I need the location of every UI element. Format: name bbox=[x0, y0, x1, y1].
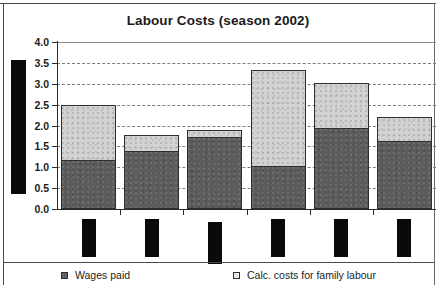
bar-segment-wages-paid-5 bbox=[314, 128, 369, 209]
y-axis-line bbox=[57, 41, 58, 210]
bar-segment-wages-paid-3 bbox=[187, 137, 242, 209]
legend-item-family-labour[interactable]: Calc. costs for family labour bbox=[233, 269, 376, 281]
redaction-block-y-axis-title bbox=[11, 60, 26, 194]
bar-segment-family-labour-5 bbox=[314, 83, 369, 130]
x-axis-tick-3 bbox=[247, 210, 248, 215]
legend-separator bbox=[4, 262, 434, 263]
legend-item-wages-paid[interactable]: Wages paid bbox=[61, 269, 130, 281]
legend-swatch-icon-2 bbox=[233, 272, 240, 279]
bar-segment-family-labour-4 bbox=[251, 70, 306, 167]
legend-label-2: Calc. costs for family labour bbox=[247, 269, 376, 281]
redaction-block-category-5 bbox=[334, 219, 348, 257]
figure-border-top bbox=[0, 3, 436, 4]
bar-category-1 bbox=[61, 105, 116, 209]
x-axis-tick-4 bbox=[310, 210, 311, 215]
bar-category-2 bbox=[124, 135, 179, 209]
x-axis-tick-2 bbox=[183, 210, 184, 215]
bar-segment-wages-paid-1 bbox=[61, 160, 116, 209]
y-axis-label-0.0: 0.0 bbox=[0, 204, 49, 215]
legend-label-1: Wages paid bbox=[75, 269, 130, 281]
bar-category-6 bbox=[377, 117, 432, 209]
plot-area bbox=[57, 42, 436, 209]
chart-figure: Labour Costs (season 2002) 4.03.53.02.52… bbox=[0, 0, 436, 285]
bar-segment-family-labour-6 bbox=[377, 117, 432, 142]
legend-swatch-icon-1 bbox=[61, 272, 68, 279]
bar-category-4 bbox=[251, 70, 306, 209]
bar-category-5 bbox=[314, 83, 369, 210]
bar-segment-wages-paid-2 bbox=[124, 151, 179, 209]
gridline-3.5 bbox=[57, 63, 436, 64]
bar-segment-wages-paid-6 bbox=[377, 141, 432, 209]
bar-segment-family-labour-2 bbox=[124, 135, 179, 152]
bar-segment-wages-paid-4 bbox=[251, 166, 306, 209]
y-axis-label-4.0: 4.0 bbox=[0, 37, 49, 48]
redaction-block-category-4 bbox=[271, 219, 285, 257]
redaction-block-category-6 bbox=[397, 219, 411, 257]
gridline-4.0 bbox=[57, 42, 436, 43]
chart-title: Labour Costs (season 2002) bbox=[0, 13, 436, 28]
chart-legend: Wages paidCalc. costs for family labour bbox=[0, 266, 436, 285]
x-axis-tick-1 bbox=[120, 210, 121, 215]
x-axis-line bbox=[57, 209, 436, 210]
redaction-block-category-1 bbox=[82, 219, 96, 257]
bar-segment-family-labour-1 bbox=[61, 105, 116, 162]
x-axis-tick-5 bbox=[373, 210, 374, 215]
redaction-block-category-2 bbox=[145, 219, 159, 257]
bar-segment-family-labour-3 bbox=[187, 130, 242, 139]
redaction-block-category-3 bbox=[208, 222, 222, 264]
gridline-3.0 bbox=[57, 84, 436, 85]
bar-category-3 bbox=[187, 130, 242, 209]
